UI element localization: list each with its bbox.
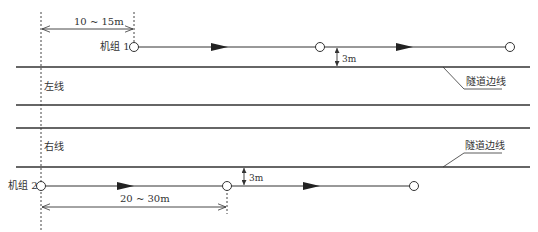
unit2-node-mid [223, 182, 232, 191]
dim-3m-lower-label: 3m [249, 172, 263, 184]
dim-3m-upper-label: 3m [342, 53, 356, 65]
unit1-node-mid [316, 43, 325, 52]
direction-arrow-icon [303, 182, 320, 190]
unit1-path [130, 43, 515, 52]
direction-arrow-icon [396, 43, 413, 51]
direction-arrow-icon [211, 43, 228, 51]
dim-10-15m-label: 10 ~ 15m [74, 16, 124, 28]
unit1-node-start [130, 43, 139, 52]
unit2-node-end [410, 182, 419, 191]
tunnel-boundaries [16, 67, 530, 167]
tunnel-edge-label-upper: 隧道边线 [466, 76, 506, 88]
right-tunnel-label: 右线 [44, 141, 64, 153]
unit1-node-end [506, 43, 515, 52]
left-tunnel-label: 左线 [44, 81, 64, 93]
dimension-lines [42, 29, 337, 207]
unit1-label: 机组 1 [100, 41, 130, 53]
unit2-label: 机组 2 [8, 180, 38, 192]
tunnel-edge-label-lower: 隧道边线 [465, 140, 505, 152]
tunnel-construction-diagram [0, 0, 538, 232]
unit2-path [37, 182, 419, 191]
direction-arrow-icon [117, 182, 134, 190]
leader-line-lower [443, 153, 502, 167]
dim-20-30m-label: 20 ~ 30m [120, 193, 170, 205]
